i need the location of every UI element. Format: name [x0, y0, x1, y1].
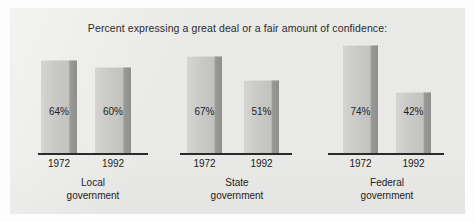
bar-value-label: 67% [187, 106, 222, 117]
bar-group-federal: 74% 42% 1972 1992 Federal government [326, 0, 448, 222]
bar-value-label: 60% [95, 106, 131, 117]
group-label-line1: Federal [326, 177, 448, 190]
group-label-federal: Federal government [326, 177, 448, 202]
year-label-state-1972: 1972 [187, 158, 222, 169]
year-label-local-1992: 1992 [95, 158, 131, 169]
bar-value-label: 51% [244, 106, 279, 117]
bar-group-state: 67% 51% 1972 1992 State government [178, 0, 296, 222]
group-label-line1: State [178, 177, 296, 190]
bar-federal-1972[interactable]: 74% [343, 45, 378, 153]
group-label-line1: Local [34, 177, 152, 190]
group-baseline [328, 153, 444, 155]
bar-local-1972[interactable]: 64% [41, 60, 77, 153]
year-label-state-1992: 1992 [244, 158, 279, 169]
bar-state-1972[interactable]: 67% [187, 56, 222, 153]
year-label-federal-1992: 1992 [396, 158, 431, 169]
bar-value-label: 74% [343, 106, 378, 117]
year-label-local-1972: 1972 [41, 158, 77, 169]
year-label-federal-1972: 1972 [343, 158, 378, 169]
bar-local-1992[interactable]: 60% [95, 67, 131, 153]
group-baseline [38, 153, 148, 155]
group-label-line2: government [326, 190, 448, 203]
bar-value-label: 64% [41, 106, 77, 117]
group-label-state: State government [178, 177, 296, 202]
figure: Percent expressing a great deal or a fai… [0, 0, 475, 222]
bar-value-label: 42% [396, 106, 431, 117]
group-label-line2: government [34, 190, 152, 203]
group-label-line2: government [178, 190, 296, 203]
bar-federal-1992[interactable]: 42% [396, 92, 431, 153]
group-label-local: Local government [34, 177, 152, 202]
bar-state-1992[interactable]: 51% [244, 80, 279, 153]
bar-group-local: 64% 60% 1972 1992 Local government [34, 0, 152, 222]
group-baseline [180, 153, 292, 155]
